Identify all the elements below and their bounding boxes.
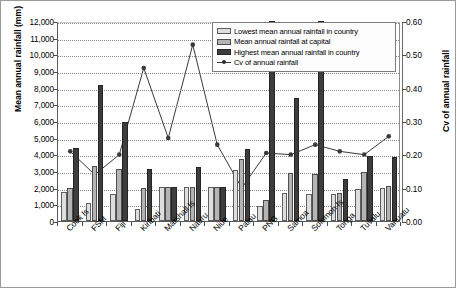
y-axis-right-tick xyxy=(402,222,406,223)
x-axis-tick xyxy=(229,222,230,226)
bar-palau-s1 xyxy=(239,159,245,222)
x-axis-tick xyxy=(106,222,107,226)
legend-line-marker-cv xyxy=(217,60,231,66)
y-axis-left-tick xyxy=(53,205,57,206)
x-axis-tick xyxy=(327,222,328,226)
legend-label-lowest: Lowest mean annual rainfall in country xyxy=(234,27,358,36)
x-axis-tick xyxy=(253,222,254,226)
gridline xyxy=(58,156,399,157)
y-axis-right-tick xyxy=(402,122,406,123)
legend-label-cv: Cv of annual rainfall xyxy=(234,58,298,67)
y-axis-left-tick xyxy=(53,189,57,190)
y-axis-right-tick xyxy=(402,189,406,190)
y-axis-left-tick xyxy=(53,105,57,106)
gridline xyxy=(58,173,399,174)
bar-fsm-s2 xyxy=(98,85,104,221)
bar-niue-s1 xyxy=(214,187,220,221)
legend-label-capital: Mean annual rainfall at capital xyxy=(234,37,330,46)
cv-marker-solomon-is xyxy=(313,142,318,147)
bar-samoa-s2 xyxy=(294,98,300,221)
y-axis-left-tick-label: 2,000 xyxy=(6,184,54,193)
bar-cook-is-s0 xyxy=(61,192,67,221)
chart-figure: Mean annual rainfall (mm) Cv of annual r… xyxy=(0,0,457,289)
x-axis-tick xyxy=(376,222,377,226)
chart-legend: Lowest mean annual rainfall in country M… xyxy=(212,22,396,72)
x-axis-tick xyxy=(57,222,58,226)
bar-png-s0 xyxy=(257,206,263,221)
x-axis-tick xyxy=(278,222,279,226)
y-axis-right-tick-label: 0.00 xyxy=(406,218,446,227)
bar-palau-s2 xyxy=(245,149,251,221)
legend-item-lowest: Lowest mean annual rainfall in country xyxy=(217,26,391,37)
y-axis-right-tick-label: 0.10 xyxy=(406,184,446,193)
cv-marker-tonga xyxy=(337,149,342,154)
x-axis-tick xyxy=(82,222,83,226)
cv-marker-cook-is xyxy=(68,149,73,154)
legend-label-highest: Highest mean annual rainfall in country xyxy=(234,48,359,57)
bar-fiji-s2 xyxy=(122,122,128,221)
y-axis-right-tick xyxy=(402,89,406,90)
gridline xyxy=(58,90,399,91)
y-axis-left-tick xyxy=(53,39,57,40)
legend-item-capital: Mean annual rainfall at capital xyxy=(217,37,391,48)
gridline xyxy=(58,73,399,74)
cv-marker-png xyxy=(264,151,269,156)
cv-marker-nauru xyxy=(190,42,195,47)
x-axis-tick xyxy=(351,222,352,226)
legend-swatch-highest xyxy=(217,49,231,55)
y-axis-left-tick xyxy=(53,122,57,123)
y-axis-left-tick-label: 11,000 xyxy=(6,34,54,43)
y-axis-right-tick-label: 0.20 xyxy=(406,151,446,160)
y-axis-left-tick-label: 6,000 xyxy=(6,118,54,127)
x-axis-tick xyxy=(302,222,303,226)
y-axis-left-tick-label: 9,000 xyxy=(6,68,54,77)
legend-swatch-capital xyxy=(217,39,231,45)
bar-fiji-s0 xyxy=(110,194,116,222)
y-axis-left-tick xyxy=(53,155,57,156)
y-axis-right-tick xyxy=(402,22,406,23)
x-axis-tick xyxy=(204,222,205,226)
gridline xyxy=(58,140,399,141)
y-axis-left-tick xyxy=(53,172,57,173)
x-axis-tick xyxy=(180,222,181,226)
bar-tuvalu-s1 xyxy=(361,172,367,221)
y-axis-right-tick xyxy=(402,55,406,56)
y-axis-left-tick xyxy=(53,89,57,90)
bar-marshall-is-s1 xyxy=(165,187,171,221)
y-axis-left-tick-label: 3,000 xyxy=(6,168,54,177)
y-axis-left-tick-label: 0 xyxy=(6,218,54,227)
y-axis-left-tick-label: 8,000 xyxy=(6,84,54,93)
cv-marker-kiribati xyxy=(141,66,146,71)
y-axis-left-tick-label: 12,000 xyxy=(6,18,54,27)
bar-fsm-s1 xyxy=(92,166,98,221)
legend-item-highest: Highest mean annual rainfall in country xyxy=(217,47,391,58)
y-axis-right-tick-label: 0.30 xyxy=(406,118,446,127)
x-axis-tick xyxy=(400,222,401,226)
legend-swatch-lowest xyxy=(217,28,231,34)
bar-samoa-s0 xyxy=(282,193,288,221)
y-axis-left-tick-label: 5,000 xyxy=(6,134,54,143)
y-axis-right-tick-label: 0.60 xyxy=(406,18,446,27)
bar-cook-is-s1 xyxy=(67,188,73,221)
cv-marker-vanuatu xyxy=(386,134,391,139)
legend-item-cv: Cv of annual rainfall xyxy=(217,58,391,69)
x-axis-tick xyxy=(155,222,156,226)
bar-fiji-s1 xyxy=(116,169,122,221)
y-axis-left-tick-label: 1,000 xyxy=(6,201,54,210)
y-axis-right-tick xyxy=(402,155,406,156)
y-axis-left-tick-label: 10,000 xyxy=(6,51,54,60)
bar-samoa-s1 xyxy=(288,173,294,221)
y-axis-right-tick-label: 0.50 xyxy=(406,51,446,60)
y-axis-left-tick-label: 4,000 xyxy=(6,151,54,160)
gridline xyxy=(58,106,399,107)
bar-vanuatu-s1 xyxy=(386,186,392,221)
bar-palau-s0 xyxy=(233,170,239,221)
bar-kiribati-s1 xyxy=(141,188,147,221)
y-axis-left-tick xyxy=(53,55,57,56)
y-axis-right-tick-label: 0.40 xyxy=(406,84,446,93)
y-axis-left-tick xyxy=(53,22,57,23)
bar-kiribati-s0 xyxy=(135,209,141,221)
y-axis-left-tick xyxy=(53,139,57,140)
bar-solomon-is-s1 xyxy=(312,174,318,222)
x-axis-tick xyxy=(131,222,132,226)
